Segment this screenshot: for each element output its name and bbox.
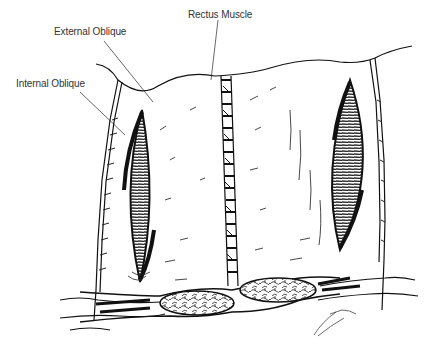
surface-texture-marks xyxy=(160,87,321,280)
abdominal-wall-illustration: Rectus Muscle External Oblique Internal … xyxy=(0,0,427,351)
illustration-drawing xyxy=(0,0,427,351)
rectus-muscle-label: Rectus Muscle xyxy=(188,9,252,20)
left-relaxing-incision xyxy=(124,110,154,282)
internal-oblique-label: Internal Oblique xyxy=(16,78,85,89)
artist-signature xyxy=(314,310,356,336)
right-rectus-section xyxy=(240,278,316,302)
leader-lines xyxy=(80,20,218,135)
right-relaxing-incision xyxy=(332,80,363,250)
rectus-leader-line xyxy=(211,20,218,80)
external-oblique-label: External Oblique xyxy=(54,26,126,37)
abdominal-wall-outline xyxy=(60,46,418,330)
left-rectus-section xyxy=(160,291,234,315)
midline-suture-line xyxy=(221,76,238,286)
